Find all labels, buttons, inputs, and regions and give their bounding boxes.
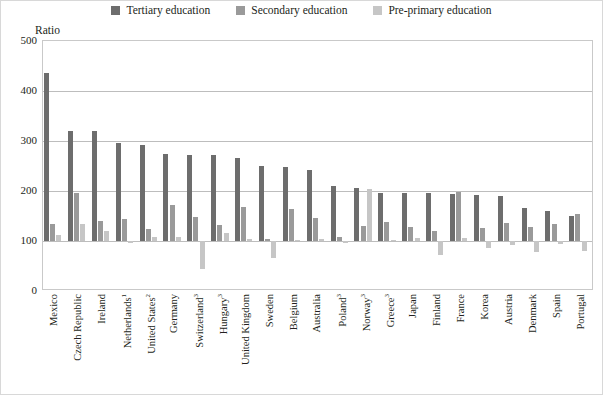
bar-secondary [408,227,413,241]
bar-tertiary [569,216,574,241]
legend-item-0: Tertiary education [111,5,210,17]
x-label-cell: Portugal [569,292,593,392]
bar-preprimary [391,240,396,242]
bar-group [43,41,67,289]
bar-group [544,41,568,289]
bar-tertiary [307,170,312,242]
x-axis-tick-label: Australia [312,294,323,333]
bar-preprimary [319,239,324,242]
bar-tertiary [68,131,73,241]
x-axis-tick-label: Netherlands1 [119,294,133,348]
legend-item-2: Pre-primary education [373,5,491,17]
x-axis-tick-label: Ireland [97,294,108,324]
bar-tertiary [259,166,264,241]
x-axis-tick-label: Poland3 [334,294,348,327]
bar-secondary [432,231,437,242]
bar-secondary [74,193,79,241]
bar-preprimary [224,233,229,242]
bar-preprimary [582,241,587,251]
bar-secondary [289,209,294,242]
bar-preprimary [486,241,491,248]
bar-group [425,41,449,289]
bar-preprimary [462,238,467,242]
y-tick-label: 500 [1,35,37,46]
x-label-cell: Denmark [521,292,545,392]
x-axis-tick-label: Austria [504,294,515,325]
bar-secondary [480,228,485,241]
bar-preprimary [295,240,300,241]
bar-preprimary [80,224,85,242]
bar-group [91,41,115,289]
chart-legend: Tertiary educationSecondary educationPre… [0,5,603,17]
bar-tertiary [545,211,550,242]
bar-secondary [361,226,366,241]
bar-tertiary [450,194,455,241]
x-label-cell: Sweden [258,292,282,392]
bar-secondary [241,207,246,241]
bar-group [401,41,425,289]
x-axis-tick-label: Mexico [49,294,60,326]
bar-secondary [122,219,127,241]
bar-preprimary [200,241,205,269]
legend-label: Pre-primary education [388,5,491,17]
x-axis-tick-label: Germany [168,294,179,333]
bar-group [306,41,330,289]
bar-tertiary [92,131,97,241]
bar-group [67,41,91,289]
x-label-cell: United States2 [138,292,162,392]
bar-tertiary [163,154,168,242]
x-axis-tick-label: Finland [432,294,443,326]
x-axis-tick-label: United States2 [143,294,157,354]
x-label-cell: Netherlands1 [114,292,138,392]
y-tick-label: 200 [1,185,37,196]
x-axis-tick-label: France [456,294,467,323]
x-axis-tick-label: Sweden [264,294,275,327]
bar-tertiary [283,167,288,241]
bar-tertiary [378,193,383,242]
x-axis-tick-label: Switzerland3 [191,294,205,348]
plot-area: 0100200300400500 [42,40,593,290]
x-axis-labels: MexicoCzech RepublicIrelandNetherlands1U… [42,292,593,392]
x-axis-tick-label: Greece3 [382,294,396,327]
legend-item-1: Secondary education [236,5,347,17]
bar-group [449,41,473,289]
x-label-cell: Poland3 [329,292,353,392]
bar-tertiary [187,155,192,241]
bar-secondary [217,225,222,241]
bar-secondary [552,224,557,241]
bar-secondary [170,205,175,241]
bar-tertiary [116,143,121,242]
x-axis-tick-label: Japan [408,294,419,318]
x-axis-tick-label: Czech Republic [73,294,84,361]
bar-group [330,41,354,289]
x-label-cell: Czech Republic [66,292,90,392]
bar-secondary [384,222,389,242]
bar-secondary [456,192,461,241]
bar-secondary [265,239,270,242]
bar-group [258,41,282,289]
bar-group [353,41,377,289]
bar-secondary [146,229,151,242]
bar-secondary [193,217,198,241]
x-label-cell: Hungary3 [210,292,234,392]
bar-secondary [313,218,318,241]
y-tick-label: 400 [1,85,37,96]
bar-group [377,41,401,289]
bar-group [568,41,592,289]
x-axis-tick-label: United Kingdom [240,294,251,365]
square-swatch-icon [111,6,120,15]
x-label-cell: Norway3 [353,292,377,392]
bar-tertiary [354,188,359,242]
bar-group [139,41,163,289]
legend-label: Tertiary education [126,5,210,17]
bar-tertiary [474,195,479,241]
bar-group [282,41,306,289]
bar-preprimary [510,241,515,245]
bar-secondary [575,214,580,242]
square-swatch-icon [236,6,245,15]
x-label-cell: France [449,292,473,392]
bar-preprimary [534,241,539,252]
bar-preprimary [438,241,443,255]
bar-tertiary [522,208,527,241]
x-label-cell: Ireland [90,292,114,392]
